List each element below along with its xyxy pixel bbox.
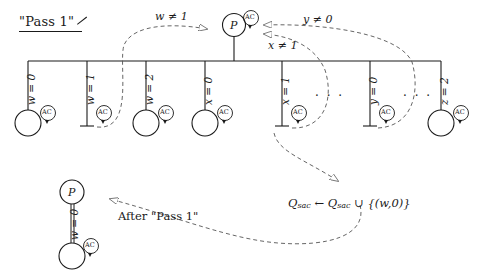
assignment-union-glyph: ∪ (354, 196, 364, 210)
page-title: "Pass 1" (19, 15, 74, 28)
ac-label-branch-6: AC (381, 109, 391, 116)
bottom-edge-label: w = 0 (69, 209, 80, 240)
ellipsis-1: · · · (315, 90, 344, 102)
dashed-arrow-to-assignment (274, 133, 338, 181)
assignment-rhs-sub: sac (337, 201, 350, 210)
branch-label-1: w = 0 (26, 74, 37, 105)
ac-label-branch-1: AC (42, 109, 52, 116)
ac-label-root: AC (245, 14, 255, 21)
branch-label-6: y = 0 (368, 77, 379, 105)
ac-label-branch-3: AC (160, 109, 170, 116)
ac-label-branch-4: AC (219, 109, 229, 116)
ac-label-branch-2: AC (98, 109, 108, 116)
assignment-lhs-sub: sac (297, 201, 310, 210)
bottom-node-label: P (68, 187, 75, 198)
title-underline (19, 31, 82, 32)
ellipsis-2: · · · (403, 90, 432, 102)
condition-label-w: w ≠ 1 (155, 11, 188, 22)
ac-label-branch-5: AC (293, 109, 303, 116)
branch-label-7: z = 2 (439, 77, 450, 105)
assignment-formula: Qsac ← Qsac ∪ {(w,0)} (288, 198, 411, 210)
ac-label-branch-7: AC (455, 109, 465, 116)
assignment-rhs: Q (328, 196, 337, 210)
root-node-label: P (230, 20, 237, 31)
condition-label-x: x ≠ 1 (268, 40, 297, 51)
condition-label-y: y ≠ 0 (303, 14, 332, 25)
branch-label-2: w = 1 (85, 74, 96, 105)
branch-label-3: w = 2 (144, 74, 155, 105)
branch-label-5: x = 1 (280, 77, 291, 105)
assignment-arrow-glyph: ← (314, 196, 324, 210)
ac-label-bottom: AC (85, 242, 95, 249)
assignment-pair: {(w,0)} (368, 196, 411, 210)
diagram-canvas: "Pass 1" P AC AC AC AC AC AC AC AC w = 0… (0, 0, 477, 277)
branch-label-4: x = 0 (203, 77, 214, 105)
after-pass-label: After "Pass 1" (118, 211, 198, 223)
